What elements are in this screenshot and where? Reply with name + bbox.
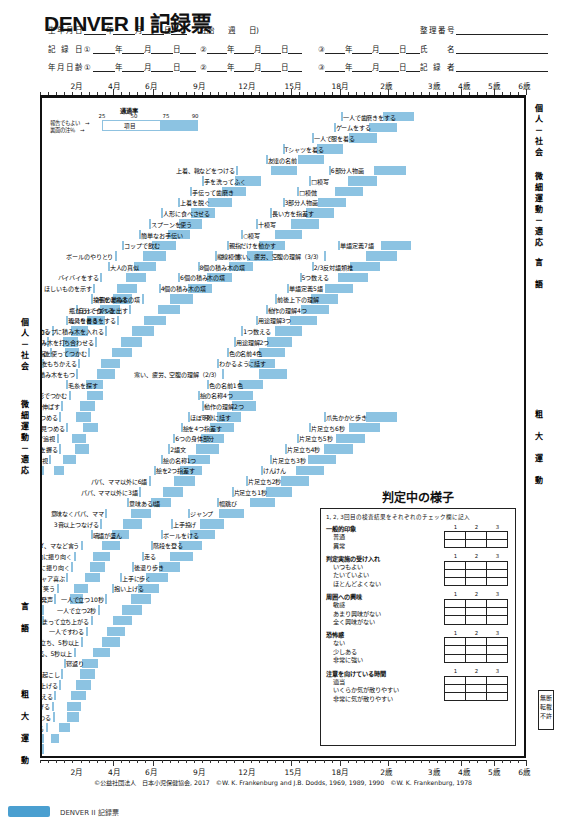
- axis-tick: [526, 760, 527, 766]
- axis-tick: [210, 760, 211, 763]
- category-right-personal-social: 個人－社会: [532, 104, 543, 159]
- category-left-language: 言 語: [18, 602, 29, 635]
- axis-tick: [81, 760, 82, 763]
- axis-tick: [48, 760, 49, 763]
- footer-note: DENVER II 記録票: [60, 807, 119, 817]
- no-reprint-stamp: 無断転載不許: [538, 690, 554, 730]
- category-left-personal-social: 個人－社会: [18, 318, 29, 373]
- category-right-gross-motor: 粗 大 運 動: [532, 410, 543, 487]
- axis-tick: [121, 760, 122, 763]
- axis-tick: [64, 760, 65, 763]
- axis-tick: [202, 760, 203, 763]
- axis-tick: [356, 760, 357, 763]
- axis-tick: [469, 760, 470, 763]
- axis-tick-labels: 2月4月6月9月12月15月18月2歳3歳4歳5歳6歳: [0, 766, 566, 777]
- axis-tick: [186, 760, 187, 763]
- axis-tick: [275, 760, 276, 763]
- axis-tick: [494, 760, 495, 766]
- axis-tick: [388, 760, 389, 766]
- axis-tick-label: 4歳: [458, 766, 470, 777]
- axis-tick: [299, 760, 300, 763]
- axis-tick: [153, 760, 154, 766]
- axis-tick: [56, 760, 57, 763]
- axis-tick-label: 3歳: [428, 766, 440, 777]
- axis-tick: [502, 760, 503, 763]
- axis-tick: [89, 760, 90, 763]
- axis-tick-label: 9月: [193, 766, 205, 777]
- axis-tick: [453, 760, 454, 763]
- axis-tick: [170, 760, 171, 763]
- axis-tick-label: 6月: [145, 766, 157, 777]
- category-right-language: 言 語: [532, 258, 543, 291]
- axis-tick: [348, 760, 349, 763]
- axis-tick-label: 4月: [108, 766, 120, 777]
- axis-tick: [332, 760, 333, 763]
- axis-tick: [307, 760, 308, 763]
- axis-tick: [405, 760, 406, 763]
- axis-tick: [129, 760, 130, 763]
- axis-tick: [477, 760, 478, 763]
- legend-bar-label: 項目: [124, 122, 136, 130]
- axis-tick: [324, 760, 325, 763]
- axis-tick: [251, 760, 252, 763]
- axis-tick: [178, 760, 179, 763]
- axis-tick: [364, 760, 365, 763]
- axis-tick: [340, 760, 341, 766]
- axis-tick: [105, 760, 106, 763]
- axis-tick: [267, 760, 268, 763]
- axis-tick: [145, 760, 146, 763]
- axis-tick: [437, 760, 438, 763]
- axis-tick-label: 2月: [71, 766, 83, 777]
- category-left-gross-motor: 粗 大 運 動: [18, 690, 29, 767]
- axis-tick: [291, 760, 292, 766]
- axis-tick: [283, 760, 284, 763]
- axis-tick: [429, 760, 430, 763]
- axis-tick: [243, 760, 244, 763]
- axis-tick: [234, 760, 235, 763]
- axis-tick-label: 2歳: [380, 766, 392, 777]
- axis-tick: [113, 760, 114, 766]
- axis-tick: [40, 760, 41, 763]
- axis-tick: [194, 760, 195, 763]
- copyright-line: ©公益社団法人 日本小児保健協会, 2017 ©W. K. Frankenbur…: [0, 778, 566, 787]
- axis-tick: [396, 760, 397, 763]
- axis-tick: [421, 760, 422, 763]
- footer-bar: DENVER II 記録票: [8, 806, 558, 818]
- axis-tick: [97, 760, 98, 763]
- axis-tick: [259, 760, 260, 763]
- axis-bottom: 2月4月6月9月12月15月18月2歳3歳4歳5歳6歳: [0, 0, 566, 1]
- category-left-fine-motor: 微細運動－適応: [18, 400, 29, 477]
- axis-tick: [137, 760, 138, 763]
- axis-tick: [413, 760, 414, 763]
- axis-tick: [218, 760, 219, 763]
- axis-tick: [486, 760, 487, 763]
- axis-tick: [461, 760, 462, 766]
- axis-tick: [372, 760, 373, 763]
- footer-logo-chip: [8, 806, 50, 817]
- axis-tick: [162, 760, 163, 763]
- axis-tick: [510, 760, 511, 763]
- axis-tick: [315, 760, 316, 763]
- axis-tick: [445, 760, 446, 763]
- axis-tick: [72, 760, 73, 763]
- axis-tick-label: 18月: [332, 766, 349, 777]
- axis-tick-label: 5歳: [488, 766, 500, 777]
- axis-tick: [226, 760, 227, 763]
- category-right-fine-motor: 微細運動－適応: [532, 172, 543, 249]
- axis-tick: [518, 760, 519, 763]
- category-labels: 個人－社会微細運動－適応言 語粗 大 運 動個人－社会微細運動－適応言 語粗 大…: [0, 0, 566, 818]
- axis-tick-label: 6歳: [518, 766, 530, 777]
- axis-tick-label: 12月: [238, 766, 255, 777]
- axis-tick-label: 15月: [284, 766, 301, 777]
- axis-tick: [380, 760, 381, 763]
